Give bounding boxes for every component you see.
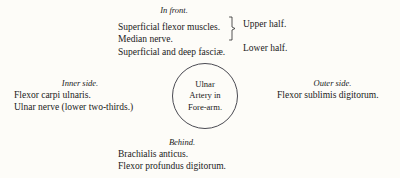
behind-heading: Behind.	[118, 137, 246, 148]
center-label-line-2: Artery in	[189, 90, 220, 101]
inner-heading: Inner side.	[14, 78, 146, 89]
behind-entry-label: Flexor profundus digitorum.	[118, 160, 246, 172]
front-entry-row: Median nerve.	[118, 28, 230, 40]
front-entry-label: Superficial and deep fasciæ.	[118, 47, 225, 57]
inner-entry-label: Ulnar nerve (lower two-thirds.)	[14, 101, 146, 113]
front-relations-block: In front. Superficial flexor muscles. Me…	[118, 5, 230, 53]
outer-relations-block: Outer side. Flexor sublimis digitorum.	[277, 78, 388, 101]
outer-heading: Outer side.	[277, 78, 388, 89]
ulnar-artery-relations-diagram: In front. Superficial flexor muscles. Me…	[0, 0, 400, 178]
front-entry-row: Superficial and deep fasciæ.	[118, 41, 230, 53]
front-entry-list: Superficial flexor muscles. Median nerve…	[118, 16, 230, 53]
outer-entry-label: Flexor sublimis digitorum.	[277, 89, 388, 101]
front-entry-row: Superficial flexor muscles.	[118, 16, 230, 28]
lower-half-label: Lower half.	[243, 42, 287, 54]
center-label-line-3: Fore-arm.	[188, 102, 222, 113]
inner-relations-block: Inner side. Flexor carpi ulnaris. Ulnar …	[14, 78, 146, 114]
behind-entry-label: Brachialis anticus.	[118, 148, 246, 160]
behind-relations-block: Behind. Brachialis anticus. Flexor profu…	[118, 137, 246, 173]
inner-entry-label: Flexor carpi ulnaris.	[14, 89, 146, 101]
center-circle: Ulnar Artery in Fore-arm.	[172, 63, 238, 129]
upper-half-label: Upper half.	[243, 18, 286, 30]
upper-half-brace-icon	[228, 16, 236, 41]
center-label-line-1: Ulnar	[195, 79, 215, 90]
front-heading: In front.	[118, 5, 230, 16]
